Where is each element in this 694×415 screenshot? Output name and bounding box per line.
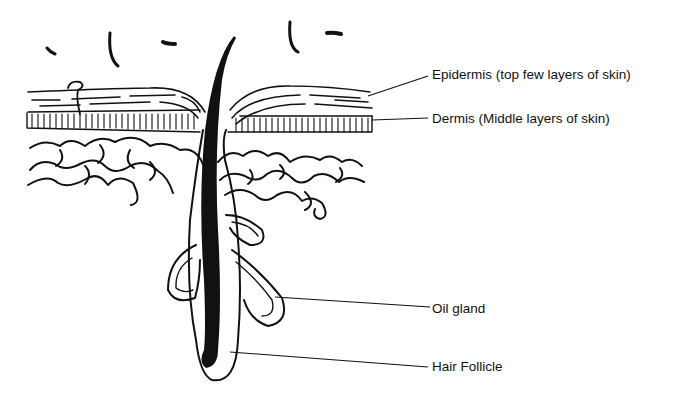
label-dermis: Dermis (Middle layers of skin) xyxy=(432,111,610,127)
label-oil-gland: Oil gland xyxy=(432,301,485,317)
skin-diagram: Epidermis (top few layers of skin) Dermi… xyxy=(0,0,694,415)
surface-hair xyxy=(290,22,298,52)
skin-illustration xyxy=(0,0,694,415)
surface-hair xyxy=(327,33,341,34)
gland-upper-right xyxy=(226,215,264,245)
surface-hair xyxy=(163,42,175,44)
surface-hair xyxy=(110,33,118,66)
surface-hair xyxy=(47,48,55,54)
hair-shaft xyxy=(201,36,236,368)
label-hair-follicle: Hair Follicle xyxy=(432,359,503,375)
label-epidermis: Epidermis (top few layers of skin) xyxy=(432,67,631,83)
